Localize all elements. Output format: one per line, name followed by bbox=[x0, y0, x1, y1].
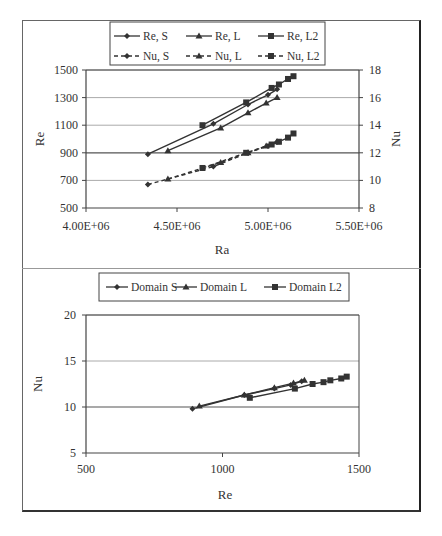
diamond-marker-icon bbox=[265, 92, 271, 98]
series-re-l bbox=[164, 94, 280, 153]
legend-marker-icon bbox=[272, 284, 278, 290]
square-marker-icon bbox=[338, 375, 344, 381]
y2-tick-label: 10 bbox=[369, 173, 381, 187]
y-tick-label: 1100 bbox=[54, 118, 78, 132]
legend-label: Domain L bbox=[200, 281, 247, 293]
y-axis-title: Re bbox=[32, 132, 47, 147]
legend-marker-icon bbox=[268, 33, 274, 39]
x-axis-title: Re bbox=[218, 487, 233, 502]
y2-tick-label: 16 bbox=[369, 91, 381, 105]
legend-label: Nu, L2 bbox=[287, 50, 320, 63]
legend-label: Domain S bbox=[131, 281, 177, 293]
square-marker-icon bbox=[285, 135, 291, 141]
y-tick-label: 900 bbox=[60, 146, 78, 160]
legend-label: Nu, S bbox=[143, 50, 169, 63]
y2-tick-label: 18 bbox=[369, 63, 381, 77]
x-tick-label: 5.50E+06 bbox=[335, 219, 382, 233]
x-tick-label: 500 bbox=[77, 462, 95, 476]
diamond-marker-icon bbox=[145, 182, 151, 188]
y2-tick-label: 14 bbox=[369, 118, 381, 132]
y-tick-label: 1300 bbox=[54, 91, 78, 105]
square-marker-icon bbox=[269, 142, 275, 148]
legend-marker-icon bbox=[268, 53, 274, 59]
legend-label: Nu, L bbox=[215, 50, 242, 63]
square-marker-icon bbox=[344, 374, 350, 380]
triangle-marker-icon bbox=[244, 109, 251, 115]
series-re-l2 bbox=[199, 73, 296, 128]
square-marker-icon bbox=[199, 122, 205, 128]
x-tick-label: 1000 bbox=[211, 462, 235, 476]
series-line bbox=[199, 380, 304, 406]
diamond-marker-icon bbox=[210, 121, 216, 127]
x-axis-title: Ra bbox=[215, 242, 230, 257]
square-marker-icon bbox=[292, 386, 298, 392]
diamond-marker-icon bbox=[145, 151, 151, 157]
square-marker-icon bbox=[243, 99, 249, 105]
chart-canvas: Re, SRe, LRe, L2Nu, SNu, LNu, L250070090… bbox=[0, 0, 442, 536]
square-marker-icon bbox=[327, 377, 333, 383]
y-tick-label: 500 bbox=[60, 201, 78, 215]
y2-tick-label: 12 bbox=[369, 146, 381, 160]
series-line bbox=[168, 98, 277, 151]
x-tick-label: 4.00E+06 bbox=[62, 219, 109, 233]
y-tick-label: 5 bbox=[70, 446, 76, 460]
legend-label: Re, L bbox=[215, 30, 241, 43]
y-tick-label: 700 bbox=[60, 173, 78, 187]
y2-axis-title: Nu bbox=[388, 131, 403, 147]
square-marker-icon bbox=[290, 130, 296, 136]
y-tick-label: 10 bbox=[64, 400, 76, 414]
square-marker-icon bbox=[276, 81, 282, 87]
square-marker-icon bbox=[199, 165, 205, 171]
y-axis-title: Nu bbox=[30, 376, 45, 392]
y-tick-label: 20 bbox=[64, 308, 76, 322]
square-marker-icon bbox=[290, 73, 296, 79]
legend-label: Re, S bbox=[143, 30, 168, 43]
square-marker-icon bbox=[247, 395, 253, 401]
y2-tick-label: 8 bbox=[369, 201, 375, 215]
series-domain-l2 bbox=[247, 374, 350, 401]
square-marker-icon bbox=[243, 150, 249, 156]
square-marker-icon bbox=[269, 85, 275, 91]
square-marker-icon bbox=[276, 139, 282, 145]
square-marker-icon bbox=[321, 379, 327, 385]
y-tick-label: 15 bbox=[64, 354, 76, 368]
x-tick-label: 1500 bbox=[347, 462, 371, 476]
series-re-s bbox=[145, 86, 280, 157]
x-tick-label: 4.50E+06 bbox=[153, 219, 200, 233]
y-tick-label: 1500 bbox=[54, 63, 78, 77]
square-marker-icon bbox=[310, 381, 316, 387]
square-marker-icon bbox=[285, 76, 291, 82]
legend-label: Domain L2 bbox=[289, 281, 342, 293]
clipped-caption bbox=[30, 524, 430, 536]
legend-label: Re, L2 bbox=[287, 30, 319, 43]
x-tick-label: 5.00E+06 bbox=[244, 219, 291, 233]
